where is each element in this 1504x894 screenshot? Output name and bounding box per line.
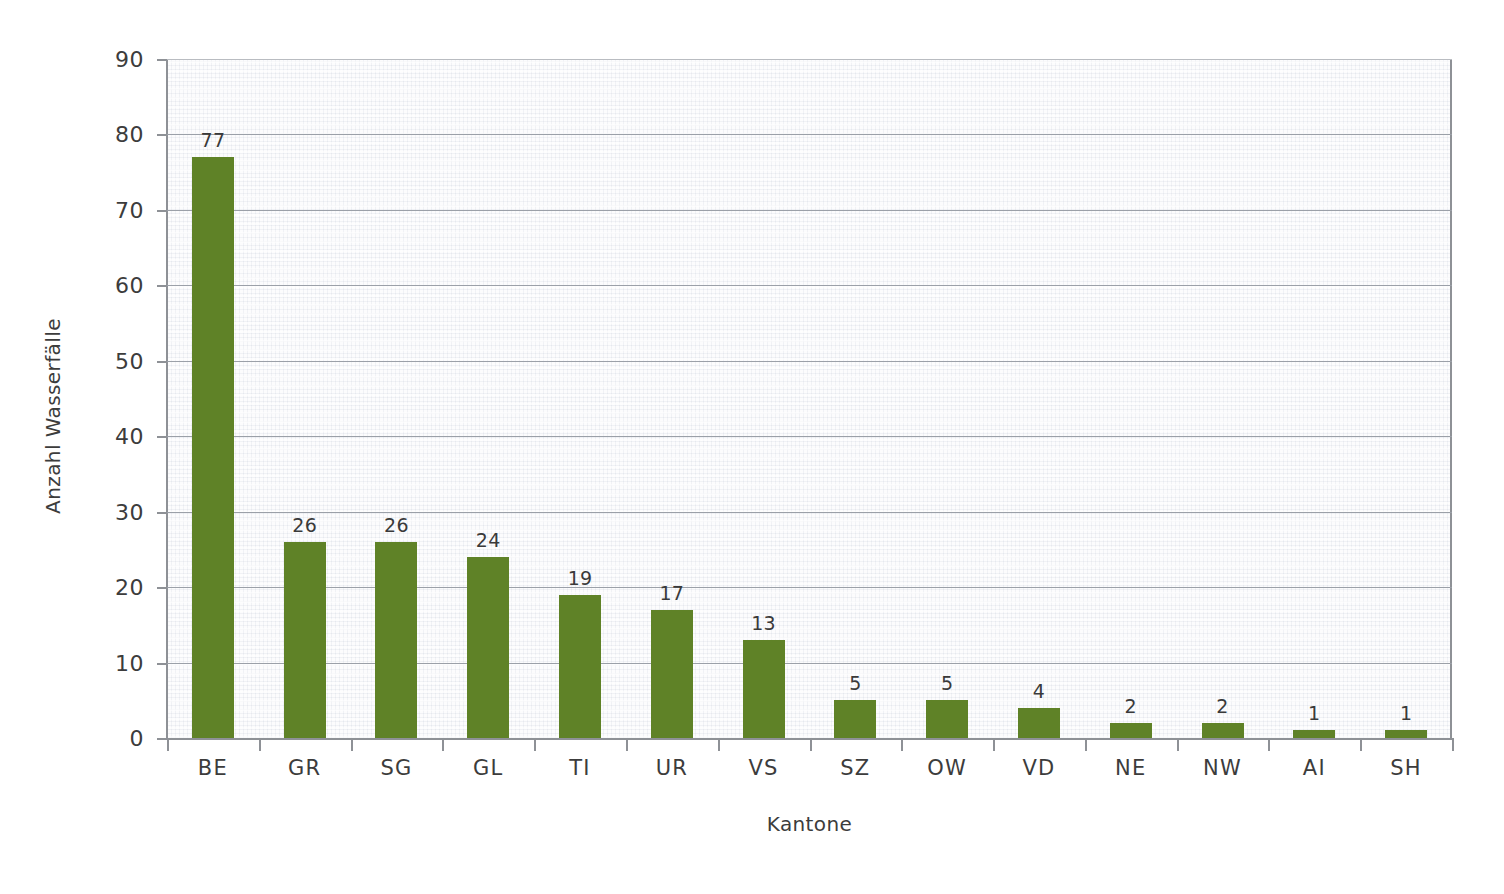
bar-value-label: 13 <box>751 612 776 634</box>
y-axis-tick-mark <box>157 210 167 212</box>
bar-group: 17 <box>626 59 718 738</box>
x-axis-category-label: VD <box>993 756 1085 780</box>
bar[interactable] <box>651 610 693 738</box>
x-axis-category-label: VS <box>718 756 810 780</box>
bar-value-label: 26 <box>384 514 409 536</box>
bar-value-label: 1 <box>1308 702 1320 724</box>
bar[interactable] <box>192 157 234 738</box>
y-axis-tick-label: 90 <box>24 47 144 72</box>
y-axis-tick-mark <box>157 134 167 136</box>
x-axis-tick-mark <box>1085 739 1087 751</box>
y-axis-tick-label: 60 <box>24 273 144 298</box>
x-axis-tick-mark <box>1177 739 1179 751</box>
x-axis-category-label: GL <box>442 756 534 780</box>
bar-group: 24 <box>442 59 534 738</box>
bar-group: 2 <box>1177 59 1269 738</box>
bar[interactable] <box>834 700 876 738</box>
bar[interactable] <box>559 595 601 738</box>
x-axis-category-label: GR <box>259 756 351 780</box>
y-axis-tick-mark <box>157 587 167 589</box>
bar-value-label: 5 <box>849 672 861 694</box>
bar-group: 1 <box>1360 59 1452 738</box>
bar-group: 5 <box>901 59 993 738</box>
x-axis-title: Kantone <box>167 812 1452 836</box>
x-axis-category-label: SH <box>1360 756 1452 780</box>
bar-value-label: 17 <box>659 582 684 604</box>
x-axis-category-label: SZ <box>810 756 902 780</box>
bar-value-label: 2 <box>1125 695 1137 717</box>
x-axis-tick-mark <box>626 739 628 751</box>
bar[interactable] <box>1110 723 1152 738</box>
x-axis-tick-mark <box>167 739 169 751</box>
x-axis-tick-mark <box>534 739 536 751</box>
x-axis-category-label: OW <box>901 756 993 780</box>
y-axis-tick-mark <box>157 663 167 665</box>
bar-value-label: 77 <box>201 129 226 151</box>
x-axis-tick-mark <box>1268 739 1270 751</box>
bar-group: 26 <box>259 59 351 738</box>
bar[interactable] <box>743 640 785 738</box>
x-axis-tick-mark <box>442 739 444 751</box>
bar[interactable] <box>467 557 509 738</box>
y-axis-title: Anzahl Wasserfälle <box>41 316 65 516</box>
y-axis-tick-label: 40 <box>24 424 144 449</box>
x-axis-tick-mark <box>1360 739 1362 751</box>
x-axis-category-label: NE <box>1085 756 1177 780</box>
y-axis-tick-mark <box>157 361 167 363</box>
bar-group: 13 <box>718 59 810 738</box>
bar-value-label: 2 <box>1216 695 1228 717</box>
bar-value-label: 5 <box>941 672 953 694</box>
bar-group: 1 <box>1268 59 1360 738</box>
x-axis-tick-mark <box>718 739 720 751</box>
x-axis-category-label: UR <box>626 756 718 780</box>
bar-group: 2 <box>1085 59 1177 738</box>
x-axis-tick-mark <box>259 739 261 751</box>
bar-value-label: 4 <box>1033 680 1045 702</box>
y-axis-tick-mark <box>157 59 167 61</box>
bar[interactable] <box>1202 723 1244 738</box>
x-axis-category-label: AI <box>1268 756 1360 780</box>
x-axis-category-label: SG <box>351 756 443 780</box>
bar[interactable] <box>375 542 417 738</box>
bar[interactable] <box>1018 708 1060 738</box>
x-axis-category-label: TI <box>534 756 626 780</box>
bar-chart: Anzahl Wasserfälle 9080706050403020100 7… <box>0 0 1504 894</box>
y-axis-tick-label: 50 <box>24 348 144 373</box>
bar[interactable] <box>1293 730 1335 738</box>
bar-value-label: 1 <box>1400 702 1412 724</box>
bar-group: 26 <box>351 59 443 738</box>
bar-group: 77 <box>167 59 259 738</box>
bar-group: 4 <box>993 59 1085 738</box>
x-axis-tick-mark <box>810 739 812 751</box>
y-axis-tick-mark <box>157 285 167 287</box>
y-axis-tick-label: 20 <box>24 575 144 600</box>
y-axis-tick-label: 30 <box>24 499 144 524</box>
y-axis-tick-mark <box>157 436 167 438</box>
y-axis-tick-label: 0 <box>24 726 144 751</box>
bar[interactable] <box>284 542 326 738</box>
bar[interactable] <box>926 700 968 738</box>
y-axis-tick-label: 80 <box>24 122 144 147</box>
bar-group: 19 <box>534 59 626 738</box>
y-axis-tick-label: 10 <box>24 650 144 675</box>
x-axis-category-label: BE <box>167 756 259 780</box>
bar-value-label: 19 <box>568 567 593 589</box>
bars-series: 772626241917135542211 <box>167 59 1452 738</box>
y-axis-tick-mark <box>157 738 167 740</box>
bar-value-label: 26 <box>292 514 317 536</box>
bar-value-label: 24 <box>476 529 501 551</box>
x-axis-tick-mark <box>1452 739 1454 751</box>
x-axis-tick-mark <box>993 739 995 751</box>
x-axis-tick-mark <box>351 739 353 751</box>
bar[interactable] <box>1385 730 1427 738</box>
x-axis-tick-mark <box>901 739 903 751</box>
y-axis-tick-mark <box>157 512 167 514</box>
y-axis-tick-label: 70 <box>24 197 144 222</box>
x-axis-category-label: NW <box>1177 756 1269 780</box>
bar-group: 5 <box>810 59 902 738</box>
